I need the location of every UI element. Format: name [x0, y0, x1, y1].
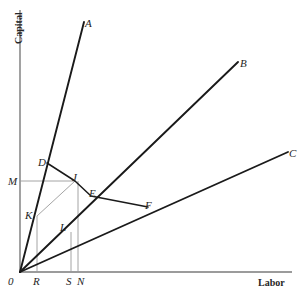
labor-axis-title: Labor	[258, 278, 285, 288]
diagram-canvas	[0, 0, 300, 295]
tick-label-n: N	[77, 276, 84, 287]
label-point-e: E	[89, 188, 96, 199]
label-point-k: K	[25, 210, 32, 221]
capital-axis-title: Capital	[14, 12, 24, 44]
tick-label-m: M	[8, 176, 17, 187]
label-ray-c: C	[289, 148, 296, 159]
label-point-l: L	[60, 222, 66, 233]
label-ray-b: B	[240, 58, 247, 69]
process-ray-c	[20, 152, 288, 272]
label-point-f: F	[145, 200, 152, 211]
label-point-j: J	[72, 172, 77, 183]
isoquant-polyline	[47, 163, 148, 207]
process-ray-a	[20, 22, 84, 272]
tick-label-s: S	[66, 276, 72, 287]
tick-label-r: R	[33, 276, 40, 287]
isoquant-diagram: Capital Labor A B C D J E F K L M 0 R S …	[0, 0, 300, 295]
label-ray-a: A	[85, 18, 92, 29]
label-point-d: D	[38, 157, 46, 168]
origin-label: 0	[8, 276, 14, 287]
